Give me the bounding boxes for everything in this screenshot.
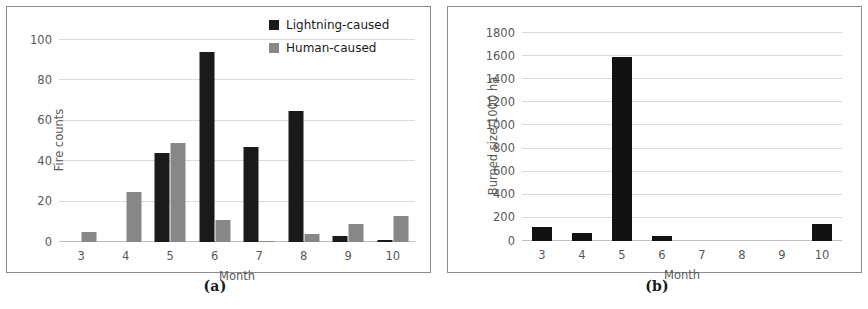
gridline — [522, 194, 842, 195]
plot-area-a: 020406080100 345678910 Month Fire counts — [59, 40, 415, 242]
y-axis-tick-label: 0 — [508, 235, 515, 247]
bar-group — [532, 33, 552, 241]
y-axis-tick-label: 20 — [37, 196, 52, 208]
figure-container: 020406080100 345678910 Month Fire counts… — [0, 0, 868, 309]
legend-a: Lightning-causedHuman-caused — [269, 19, 389, 54]
bar-group — [199, 40, 230, 242]
bar — [171, 143, 186, 242]
x-axis-tick-label: 9 — [778, 250, 785, 262]
bar — [349, 224, 364, 242]
bar-group — [812, 33, 832, 241]
legend-swatch-icon — [269, 43, 279, 53]
legend-label: Lightning-caused — [286, 19, 389, 31]
bar — [572, 233, 592, 241]
x-axis-tick-label: 5 — [167, 251, 174, 263]
bar — [288, 111, 303, 242]
y-axis-tick-label: 40 — [37, 155, 52, 167]
bar-group — [572, 33, 592, 241]
x-axis-tick-label: 7 — [256, 251, 263, 263]
bar-group — [66, 40, 97, 242]
bar — [612, 57, 632, 241]
x-axis-tick-label: 10 — [385, 251, 400, 263]
bar-group — [110, 40, 141, 242]
bar-group — [377, 40, 408, 242]
bar-group — [652, 33, 672, 241]
y-axis-tick-label: 60 — [37, 115, 52, 127]
x-axis-tick-label: 3 — [538, 250, 545, 262]
bar — [532, 227, 552, 241]
bar-group — [772, 33, 792, 241]
gridline — [522, 32, 842, 33]
x-axis-tick-label: 6 — [658, 250, 665, 262]
gridline — [522, 55, 842, 56]
gridline — [522, 124, 842, 125]
x-axis-tick-label: 9 — [345, 251, 352, 263]
gridline — [522, 148, 842, 149]
bar — [260, 241, 275, 242]
x-axis-tick-label: 8 — [738, 250, 745, 262]
bar — [244, 147, 259, 242]
x-axis-tick-label: 6 — [211, 251, 218, 263]
x-axis-tick-label: 5 — [618, 250, 625, 262]
bar — [199, 52, 214, 242]
y-axis-tick-label: 200 — [493, 212, 515, 224]
bar — [377, 240, 392, 242]
legend-item: Human-caused — [269, 42, 389, 54]
y-axis-tick-label: 80 — [37, 75, 52, 87]
bar-group — [333, 40, 364, 242]
plot-area-b: 020040060080010001200140016001800 345678… — [522, 33, 842, 241]
bar-group — [692, 33, 712, 241]
bar-group — [244, 40, 275, 242]
bar — [333, 236, 348, 242]
gridline — [522, 78, 842, 79]
bar — [304, 234, 319, 242]
bar — [812, 224, 832, 241]
bar — [393, 216, 408, 242]
bar-group — [288, 40, 319, 242]
gridline — [522, 217, 842, 218]
legend-label: Human-caused — [286, 42, 376, 54]
x-axis-tick-label: 3 — [78, 251, 85, 263]
legend-swatch-icon — [269, 20, 279, 30]
y-axis-tick-label: 0 — [45, 236, 52, 248]
panel-caption-b: (b) — [577, 278, 737, 294]
x-axis-tick-label: 4 — [122, 251, 129, 263]
legend-item: Lightning-caused — [269, 19, 389, 31]
x-axis-tick-label: 4 — [578, 250, 585, 262]
x-axis-tick-label: 7 — [698, 250, 705, 262]
chart-panel-a: 020406080100 345678910 Month Fire counts… — [6, 6, 431, 273]
gridline — [522, 101, 842, 102]
bar — [126, 192, 141, 243]
bar — [82, 232, 97, 242]
y-axis-title-b: Burned size/1000 ha — [486, 61, 500, 211]
x-axis-baseline-b — [522, 240, 842, 241]
bar-group — [155, 40, 186, 242]
panel-caption-a: (a) — [135, 278, 295, 294]
bar-group — [612, 33, 632, 241]
x-axis-tick-label: 10 — [815, 250, 830, 262]
chart-panel-b: 020040060080010001200140016001800 345678… — [447, 6, 862, 273]
bar — [652, 236, 672, 241]
y-axis-tick-label: 100 — [30, 34, 52, 46]
bar — [155, 153, 170, 242]
bar — [215, 220, 230, 242]
y-axis-title-a: Fire counts — [52, 91, 66, 189]
x-axis-tick-label: 8 — [300, 251, 307, 263]
y-axis-tick-label: 1800 — [486, 27, 515, 39]
gridline — [522, 171, 842, 172]
bar-group — [732, 33, 752, 241]
